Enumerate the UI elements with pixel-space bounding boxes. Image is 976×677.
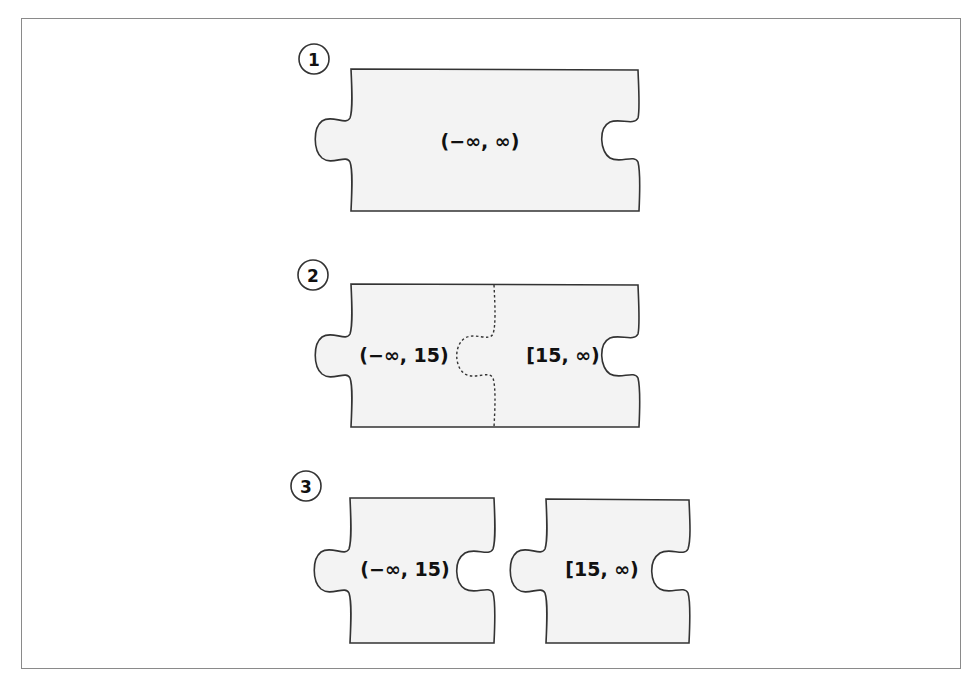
- step-1: 1 (−∞, ∞): [299, 44, 640, 211]
- badge-number: 1: [308, 50, 320, 70]
- step-number-badge: 1: [299, 44, 329, 74]
- interval-label-upper: [15, ∞): [565, 558, 638, 580]
- interval-label-upper: [15, ∞): [526, 344, 599, 366]
- step-3: 3 (−∞, 15) [15, ∞): [291, 471, 690, 643]
- badge-number: 3: [300, 477, 312, 497]
- step-number-badge: 2: [298, 260, 328, 290]
- interval-label-lower: (−∞, 15): [360, 558, 449, 580]
- badge-number: 2: [307, 266, 319, 286]
- step-number-badge: 3: [291, 471, 321, 501]
- interval-label-lower: (−∞, 15): [359, 344, 448, 366]
- interval-label-full: (−∞, ∞): [441, 130, 520, 152]
- step-2: 2 (−∞, 15) [15, ∞): [298, 260, 640, 427]
- puzzle-diagram: 1 (−∞, ∞) 2 (−∞, 15) [15, ∞) 3 (−∞, 15) …: [0, 0, 976, 677]
